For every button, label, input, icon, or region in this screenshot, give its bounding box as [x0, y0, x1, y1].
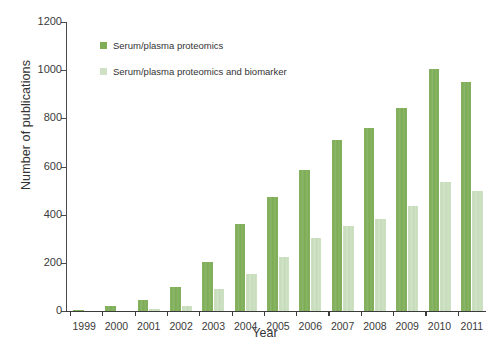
x-tick-label: 2002 [164, 320, 198, 332]
x-tick-mark [167, 311, 168, 316]
bar [408, 206, 419, 311]
legend-swatch-icon [100, 68, 107, 75]
bar [149, 309, 160, 311]
y-tick-label: 0 [56, 304, 62, 316]
y-tick-label: 800 [44, 111, 62, 123]
bar [170, 287, 181, 311]
x-tick-mark [393, 311, 394, 316]
bar [332, 140, 343, 311]
bar [138, 300, 149, 311]
bar [246, 274, 257, 311]
bar [343, 226, 354, 311]
x-tick-mark [135, 311, 136, 316]
bar [440, 182, 451, 311]
x-tick-label: 2006 [293, 320, 327, 332]
y-axis-title: Number of publications [19, 45, 33, 205]
x-tick-mark [361, 311, 362, 316]
bar [364, 128, 375, 311]
y-tick-label: 1000 [38, 63, 62, 75]
bar [182, 306, 193, 311]
x-tick-label: 2009 [390, 320, 424, 332]
chart-figure: Number of publications Year 020040060080… [0, 0, 500, 356]
bar [279, 257, 290, 311]
bar [311, 238, 322, 311]
x-tick-label: 2007 [326, 320, 360, 332]
bar [472, 191, 483, 311]
y-axis-line [66, 22, 67, 311]
legend-label: Serum/plasma proteomics [113, 40, 223, 52]
bar [267, 197, 278, 311]
x-tick-label: 2001 [132, 320, 166, 332]
x-tick-label: 1999 [67, 320, 101, 332]
x-tick-label: 2000 [99, 320, 133, 332]
x-tick-mark [296, 311, 297, 316]
bar [214, 289, 225, 311]
y-tick-label: 200 [44, 256, 62, 268]
legend-swatch-icon [100, 42, 107, 49]
legend-label: Serum/plasma proteomics and biomarker [113, 66, 287, 78]
bar [73, 310, 84, 311]
x-tick-mark [425, 311, 426, 316]
x-tick-mark [328, 311, 329, 316]
x-tick-label: 2008 [358, 320, 392, 332]
x-tick-label: 2005 [261, 320, 295, 332]
legend-item: Serum/plasma proteomics and biomarker [100, 66, 330, 78]
x-tick-label: 2010 [423, 320, 457, 332]
legend-item: Serum/plasma proteomics [100, 40, 330, 52]
x-axis-line [66, 311, 486, 312]
bar [105, 306, 116, 311]
x-tick-mark [458, 311, 459, 316]
x-tick-label: 2004 [229, 320, 263, 332]
y-tick-label: 600 [44, 160, 62, 172]
x-tick-mark [102, 311, 103, 316]
bar [461, 82, 472, 311]
bar [235, 224, 246, 311]
bar [396, 108, 407, 312]
y-tick-label: 400 [44, 208, 62, 220]
x-tick-label: 2011 [455, 320, 489, 332]
bar [202, 262, 213, 311]
bar [375, 219, 386, 311]
x-tick-mark [232, 311, 233, 316]
bar [299, 170, 310, 311]
bar [429, 69, 440, 311]
x-tick-mark [199, 311, 200, 316]
chart-legend: Serum/plasma proteomicsSerum/plasma prot… [100, 40, 330, 92]
x-tick-mark [70, 311, 71, 316]
x-tick-mark [264, 311, 265, 316]
y-tick-label: 1200 [38, 15, 62, 27]
x-tick-label: 2003 [196, 320, 230, 332]
